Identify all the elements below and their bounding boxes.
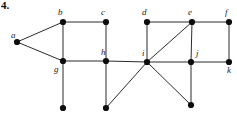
vertex-label-d: d <box>142 8 147 17</box>
graph-vertex-d <box>144 19 150 25</box>
graph-vertex-g <box>60 58 66 64</box>
vertex-label-g: g <box>54 65 59 74</box>
graph-vertex-e <box>189 19 195 25</box>
graph-figure: 4. abcdefghijk <box>0 0 237 115</box>
graph-drawing <box>0 0 237 115</box>
vertex-label-a: a <box>11 31 16 40</box>
graph-vertex-p1 <box>60 105 66 111</box>
graph-vertex-p3 <box>188 102 194 108</box>
graph-edge-a-b <box>17 22 63 42</box>
vertex-label-h: h <box>101 48 106 57</box>
graph-edge-i-p2 <box>106 62 147 108</box>
graph-vertex-i <box>144 59 150 65</box>
vertex-label-j: j <box>196 49 199 58</box>
vertex-label-c: c <box>101 8 105 17</box>
graph-vertex-c <box>103 19 109 25</box>
graph-edge-h-i <box>106 61 147 62</box>
vertex-label-k: k <box>227 66 231 75</box>
vertex-label-i: i <box>142 49 145 58</box>
graph-vertex-j <box>188 59 194 65</box>
vertex-label-b: b <box>58 8 63 17</box>
graph-edge-a-g <box>17 42 63 61</box>
edge-layer <box>17 22 229 108</box>
vertex-label-e: e <box>188 8 192 17</box>
graph-vertex-h <box>103 58 109 64</box>
graph-vertex-p2 <box>103 105 109 111</box>
graph-edge-e-j <box>191 22 192 62</box>
vertex-label-f: f <box>225 8 228 17</box>
graph-vertex-f <box>226 19 232 25</box>
graph-edge-i-p3 <box>147 62 191 105</box>
graph-vertex-b <box>60 19 66 25</box>
graph-edge-e-i <box>147 22 192 62</box>
node-layer <box>14 19 232 111</box>
